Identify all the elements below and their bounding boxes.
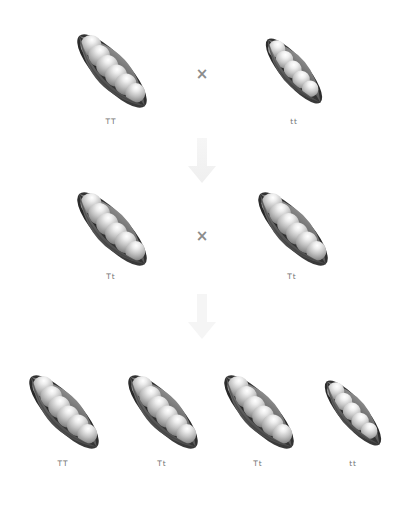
pea-pod-parental-left [62,22,162,120]
genotype-label-f2-4: tt [318,459,388,469]
pea-pod-graphic [62,22,162,120]
pea-pod-f2-2 [113,363,213,461]
genotype-label-f2-2: Tt [127,459,197,469]
genotype-label-parental-left: TT [76,117,146,127]
arrow-down-icon-f1-to-f2 [187,294,217,340]
pea-pod-f2-1 [14,363,114,461]
genotype-label-f2-1: TT [28,459,98,469]
pea-pod-parental-right [250,26,338,116]
pea-pod-graphic [62,180,162,278]
genotype-label-f2-3: Tt [223,459,293,469]
monohybrid-cross-diagram: TT × tt [0,0,404,516]
pea-pod-f2-4 [309,368,397,458]
genotype-label-f1-left: Tt [76,272,146,282]
pea-pod-graphic [309,368,397,458]
genotype-label-f1-right: Tt [257,272,327,282]
pea-pod-graphic [113,363,213,461]
pea-pod-graphic [14,363,114,461]
cross-symbol-f1: × [192,228,212,244]
cross-symbol-parental: × [192,66,212,82]
pea-pod-f2-3 [209,363,309,461]
pea-pod-f1-left [62,180,162,278]
pea-pod-graphic [250,26,338,116]
genotype-label-parental-right: tt [259,117,329,127]
arrow-down-icon-parental-to-f1 [187,138,217,184]
pea-pod-graphic [209,363,309,461]
pea-pod-f1-right [243,180,343,278]
pea-pod-graphic [243,180,343,278]
